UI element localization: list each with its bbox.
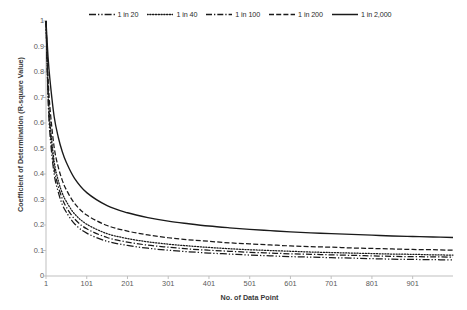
legend-line-swatch-icon bbox=[332, 10, 358, 19]
x-tick-label: 701 bbox=[325, 279, 337, 288]
series-line bbox=[46, 21, 453, 260]
series-line bbox=[46, 21, 453, 250]
x-tick-label: 101 bbox=[81, 279, 93, 288]
legend-line-swatch-icon bbox=[147, 10, 173, 19]
chart-container: 1 in 201 in 401 in 1001 in 2001 in 2,000… bbox=[0, 0, 467, 310]
plot-area bbox=[46, 21, 453, 276]
legend-line-swatch-icon bbox=[89, 10, 115, 19]
legend-label: 1 in 20 bbox=[118, 10, 139, 19]
series-line bbox=[46, 21, 453, 238]
legend-item[interactable]: 1 in 200 bbox=[269, 10, 323, 19]
y-tick-label: 0.1 bbox=[22, 247, 44, 255]
legend-item[interactable]: 1 in 20 bbox=[89, 10, 139, 19]
y-tick-label: 0.7 bbox=[22, 94, 44, 102]
x-tick-label: 801 bbox=[366, 279, 378, 288]
series-line bbox=[46, 21, 453, 255]
legend-label: 1 in 100 bbox=[235, 10, 260, 19]
y-tick-label: 1 bbox=[22, 17, 44, 25]
x-tick-label: 401 bbox=[203, 279, 215, 288]
y-tick-label: 0.9 bbox=[22, 43, 44, 51]
series-lines bbox=[46, 21, 453, 276]
x-tick-label: 501 bbox=[244, 279, 256, 288]
y-tick-label: 0.2 bbox=[22, 221, 44, 229]
legend-label: 1 in 2,000 bbox=[361, 10, 392, 19]
x-axis-ticks: 1101201301401501601701801901 bbox=[46, 279, 453, 291]
y-tick-label: 0.8 bbox=[22, 68, 44, 76]
legend-label: 1 in 200 bbox=[298, 10, 323, 19]
legend-item[interactable]: 1 in 2,000 bbox=[332, 10, 392, 19]
x-tick-label: 201 bbox=[121, 279, 133, 288]
y-axis-title: Coefficient of Determination (R-square V… bbox=[16, 55, 25, 215]
chart-legend: 1 in 201 in 401 in 1001 in 2001 in 2,000 bbox=[70, 6, 410, 22]
x-tick-label: 1 bbox=[44, 279, 48, 288]
legend-line-swatch-icon bbox=[206, 10, 232, 19]
x-tick-label: 601 bbox=[284, 279, 296, 288]
x-tick-label: 301 bbox=[162, 279, 174, 288]
y-tick-label: 0.6 bbox=[22, 119, 44, 127]
y-tick-label: 0.4 bbox=[22, 170, 44, 178]
x-axis-title: No. of Data Point bbox=[46, 293, 453, 302]
y-tick-label: 0 bbox=[22, 272, 44, 280]
y-tick-label: 0.3 bbox=[22, 196, 44, 204]
x-tick-label: 901 bbox=[406, 279, 418, 288]
series-line bbox=[46, 21, 453, 257]
legend-item[interactable]: 1 in 100 bbox=[206, 10, 260, 19]
y-tick-label: 0.5 bbox=[22, 145, 44, 153]
legend-item[interactable]: 1 in 40 bbox=[147, 10, 197, 19]
legend-label: 1 in 40 bbox=[176, 10, 197, 19]
legend-line-swatch-icon bbox=[269, 10, 295, 19]
